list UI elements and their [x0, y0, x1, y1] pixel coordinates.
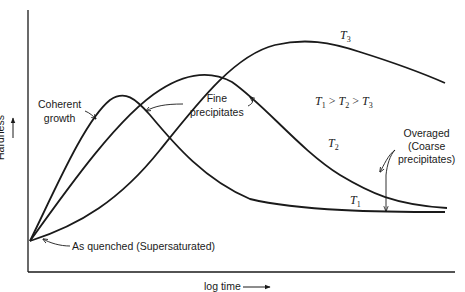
overaged-label-line1: Overaged — [398, 127, 455, 139]
t1-curve-label: T1 — [350, 193, 361, 209]
t2-subscript: 2 — [335, 143, 339, 152]
t1-subscript: 1 — [357, 200, 361, 209]
fine-precip-arrow-left-icon — [146, 104, 183, 111]
temperature-inequality-label: T1 > T2 > T3 — [315, 94, 373, 110]
overaged-arrow-stem — [386, 150, 395, 175]
t3-subscript: 3 — [347, 35, 351, 44]
overaged-label-line2: (Coarse — [398, 140, 455, 152]
ineq-gt2: > — [349, 94, 362, 108]
ineq-gt1: > — [326, 94, 339, 108]
coherent-label-line2: growth — [38, 112, 81, 124]
fine-precip-arrow-right-icon — [248, 97, 253, 106]
t2-letter: T — [328, 136, 335, 150]
coherent-growth-arrow-icon — [85, 111, 96, 119]
overaged-label: Overaged (Coarse precipitates) — [398, 127, 455, 165]
t1-letter: T — [350, 193, 357, 207]
fine-label-line1: Fine — [190, 92, 244, 104]
fine-precipitates-label: Fine precipitates — [190, 92, 244, 118]
coherent-growth-label: Coherent growth — [38, 98, 81, 124]
fine-label-line2: precipitates — [190, 106, 244, 118]
overaged-label-line3: precipitates) — [398, 153, 455, 165]
ineq-t1: T — [315, 94, 322, 108]
t2-curve-label: T2 — [328, 136, 339, 152]
ineq-sub3: 3 — [369, 101, 373, 110]
coherent-label-line1: Coherent — [38, 98, 81, 110]
as-quenched-label: As quenched (Supersaturated) — [72, 240, 215, 252]
t3-curve-label: T3 — [340, 28, 351, 44]
t3-letter: T — [340, 28, 347, 42]
as-quenched-arrow-icon — [43, 239, 70, 246]
y-axis-label: Hardness — [0, 115, 6, 160]
ineq-t3: T — [362, 94, 369, 108]
x-axis-label: log time — [204, 280, 241, 292]
